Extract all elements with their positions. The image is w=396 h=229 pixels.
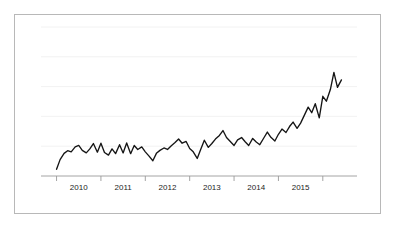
x-tick-label-2011: 2011 [115, 183, 133, 192]
gridline-group [41, 27, 357, 146]
plot-area: 201020112012201320142015 [15, 15, 382, 215]
x-tick-label-2012: 2012 [159, 183, 177, 192]
figure-root: 201020112012201320142015 [0, 0, 396, 229]
chart-card: 201020112012201320142015 [14, 14, 381, 214]
line-chart: 201020112012201320142015 [15, 15, 382, 215]
x-tick-label-2013: 2013 [203, 183, 221, 192]
x-tick-label-2015: 2015 [292, 183, 310, 192]
x-axis-tick-labels: 201020112012201320142015 [70, 183, 310, 192]
x-tick-label-2014: 2014 [247, 183, 265, 192]
x-axis-tick-marks [57, 176, 323, 181]
x-tick-label-2010: 2010 [70, 183, 88, 192]
